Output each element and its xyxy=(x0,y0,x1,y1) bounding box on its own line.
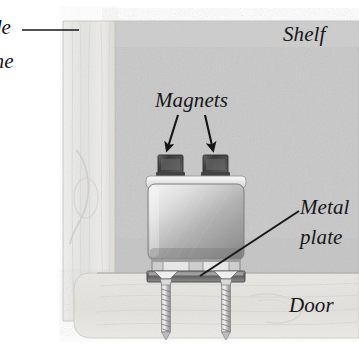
magnet-bracket-body xyxy=(146,176,246,272)
label-metal-plate-line2: plate xyxy=(300,226,343,248)
figure-canvas: de me Shelf Magnets Metal plate Door xyxy=(0,0,359,349)
mounting-screw-left xyxy=(160,279,172,340)
mounting-screw-right xyxy=(220,279,232,340)
label-side-frame-line1: de xyxy=(0,16,11,38)
label-magnets: Magnets xyxy=(155,89,228,111)
label-side-frame-line2: me xyxy=(0,50,14,72)
label-metal-plate-line1: Metal xyxy=(300,196,349,218)
label-shelf: Shelf xyxy=(283,23,326,45)
magnet-block-right xyxy=(201,155,230,177)
label-door: Door xyxy=(289,294,334,316)
magnet-block-left xyxy=(156,155,185,177)
